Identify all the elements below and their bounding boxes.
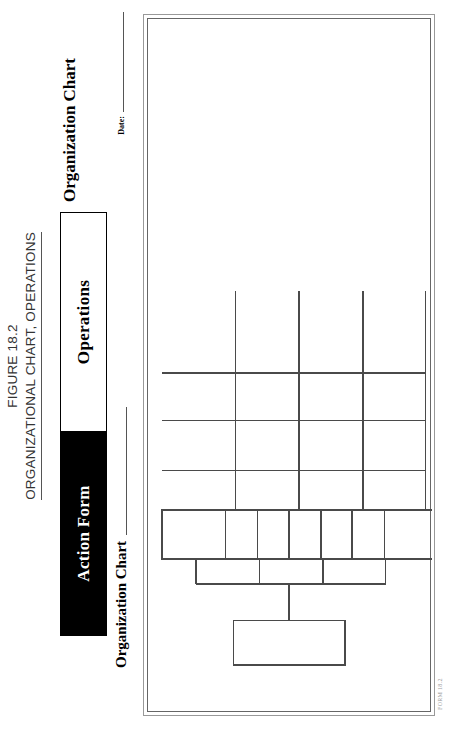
org-box-branch-3[interactable]	[289, 510, 384, 559]
chart-frame-inner	[147, 18, 431, 712]
date-field: Date:	[117, 12, 126, 135]
subtitle-row: Organization Chart Date:	[113, 12, 139, 668]
section-block[interactable]: Operations	[60, 212, 107, 431]
org-box-branch-2[interactable]	[226, 510, 321, 559]
brand-label: Action Form	[74, 485, 94, 581]
section-label: Operations	[74, 280, 94, 364]
form-header-band: Action Form Operations	[60, 212, 107, 636]
page-rotation-wrapper: FIGURE 18.2 ORGANIZATIONAL CHART, OPERAT…	[0, 0, 449, 732]
date-blank-line[interactable]	[123, 12, 124, 112]
figure-number: FIGURE 18.2	[4, 0, 22, 732]
date-label: Date:	[117, 116, 126, 135]
document-page: FIGURE 18.2 ORGANIZATIONAL CHART, OPERAT…	[0, 0, 449, 732]
subtitle-label: Organization Chart	[113, 541, 130, 668]
footer-code: FORM 18.2	[437, 678, 443, 710]
subtitle-field: Organization Chart	[113, 407, 130, 668]
subtitle-blank-line[interactable]	[126, 407, 127, 535]
org-box-branch-4[interactable]	[352, 510, 433, 559]
figure-caption-text: ORGANIZATIONAL CHART, OPERATIONS	[22, 232, 42, 500]
organization-chart-diagram	[148, 19, 432, 711]
org-box-branch-1[interactable]	[162, 510, 257, 559]
figure-caption: FIGURE 18.2 ORGANIZATIONAL CHART, OPERAT…	[4, 0, 42, 732]
org-box-root[interactable]	[234, 621, 345, 666]
brand-block: Action Form	[60, 431, 107, 636]
chart-frame-outer	[143, 14, 435, 716]
form-title: Organization Chart	[60, 58, 80, 202]
